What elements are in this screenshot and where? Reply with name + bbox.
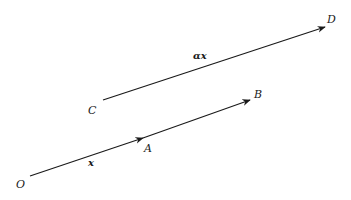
point-label-d: D	[326, 13, 336, 26]
point-label-b: B	[253, 88, 262, 101]
point-label-o: O	[16, 178, 25, 191]
vector-oa	[30, 138, 143, 176]
vector-ab	[143, 100, 250, 138]
vector-label-x: x	[87, 157, 95, 168]
point-label-a: A	[143, 142, 152, 155]
vector-label-alpha-x: αx	[193, 50, 208, 61]
vector-cd	[103, 27, 325, 100]
vector-diagram: O A B C D x αx	[0, 0, 351, 200]
point-label-c: C	[88, 104, 97, 117]
